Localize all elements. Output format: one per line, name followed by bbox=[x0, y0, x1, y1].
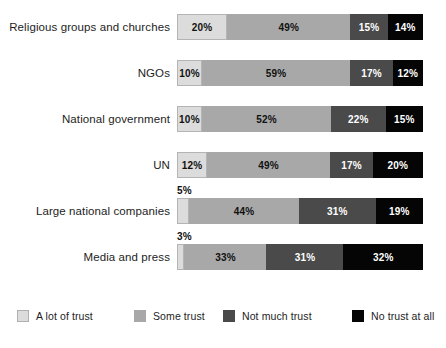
bar-segment: 44% bbox=[189, 198, 298, 224]
stacked-bar: 20%49%15%14% bbox=[177, 14, 423, 40]
legend-swatch-icon bbox=[352, 310, 364, 322]
chart-row: UN12%49%17%20% bbox=[0, 152, 446, 178]
bar-segment: 5% bbox=[177, 198, 189, 224]
segment-value-label: 20% bbox=[388, 160, 409, 171]
segment-value-label: 20% bbox=[192, 22, 213, 33]
segment-value-label: 22% bbox=[348, 114, 369, 125]
legend-label: Some trust bbox=[153, 310, 205, 322]
segment-value-label: 15% bbox=[394, 114, 415, 125]
legend-item[interactable]: Not much trust bbox=[223, 306, 312, 326]
segment-value-label: 10% bbox=[179, 114, 200, 125]
bar-segment: 49% bbox=[207, 152, 330, 178]
bar-segment: 20% bbox=[177, 14, 227, 40]
legend-item[interactable]: No trust at all bbox=[352, 306, 434, 326]
chart-legend: A lot of trustSome trustNot much trustNo… bbox=[0, 306, 446, 326]
legend-swatch-icon bbox=[134, 310, 146, 322]
bar-segment: 49% bbox=[227, 14, 350, 40]
chart-row: Media and press3%33%31%32%3% bbox=[0, 244, 446, 270]
legend-swatch-icon bbox=[223, 310, 235, 322]
bar-segment: 20% bbox=[373, 152, 423, 178]
segment-value-label: 17% bbox=[341, 160, 362, 171]
segment-value-label: 52% bbox=[256, 114, 277, 125]
legend-swatch-icon bbox=[17, 310, 29, 322]
segment-value-label: 44% bbox=[234, 206, 255, 217]
segment-value-label: 31% bbox=[327, 206, 348, 217]
chart-row: Large national companies5%44%31%19%5% bbox=[0, 198, 446, 224]
category-label: UN bbox=[0, 152, 170, 178]
category-label: NGOs bbox=[0, 60, 170, 86]
bar-segment: 31% bbox=[299, 198, 376, 224]
segment-value-label: 19% bbox=[389, 206, 410, 217]
bar-segment: 14% bbox=[388, 14, 423, 40]
legend-label: Not much trust bbox=[242, 310, 312, 322]
segment-value-label: 10% bbox=[179, 68, 200, 79]
segment-value-label: 15% bbox=[359, 22, 380, 33]
segment-value-label-outside: 3% bbox=[177, 231, 192, 243]
bar-segment: 15% bbox=[350, 14, 388, 40]
bar-segment: 32% bbox=[343, 244, 423, 270]
segment-value-label-outside: 5% bbox=[177, 185, 192, 197]
stacked-bar: 12%49%17%20% bbox=[177, 152, 423, 178]
segment-value-label: 32% bbox=[373, 252, 394, 263]
legend-item[interactable]: Some trust bbox=[134, 306, 205, 326]
segment-value-label: 33% bbox=[215, 252, 236, 263]
stacked-bar-chart: Religious groups and churches20%49%15%14… bbox=[0, 0, 446, 348]
segment-value-label: 12% bbox=[398, 68, 419, 79]
bar-segment: 33% bbox=[184, 244, 266, 270]
bar-segment: 3% bbox=[177, 244, 184, 270]
stacked-bar: 3%33%31%32% bbox=[177, 244, 423, 270]
bar-segment: 12% bbox=[177, 152, 207, 178]
bar-segment: 31% bbox=[266, 244, 343, 270]
bar-segment: 52% bbox=[202, 106, 331, 132]
bar-segment: 17% bbox=[350, 60, 393, 86]
segment-value-label: 14% bbox=[395, 22, 416, 33]
chart-row: Religious groups and churches20%49%15%14… bbox=[0, 14, 446, 40]
chart-row: NGOs10%59%17%12% bbox=[0, 60, 446, 86]
category-label: National government bbox=[0, 106, 170, 132]
segment-value-label: 12% bbox=[182, 160, 203, 171]
bar-segment: 10% bbox=[177, 106, 202, 132]
bar-segment: 59% bbox=[202, 60, 350, 86]
segment-value-label: 49% bbox=[278, 22, 299, 33]
bar-segment: 17% bbox=[330, 152, 373, 178]
category-label: Religious groups and churches bbox=[0, 14, 170, 40]
bar-segment: 15% bbox=[386, 106, 423, 132]
bar-segment: 22% bbox=[331, 106, 386, 132]
segment-value-label: 31% bbox=[295, 252, 316, 263]
bar-segment: 10% bbox=[177, 60, 202, 86]
segment-value-label: 17% bbox=[361, 68, 382, 79]
segment-value-label: 59% bbox=[266, 68, 287, 79]
bar-segment: 12% bbox=[393, 60, 423, 86]
category-label: Media and press bbox=[0, 244, 170, 270]
category-label: Large national companies bbox=[0, 198, 170, 224]
bar-segment: 19% bbox=[376, 198, 423, 224]
segment-value-label: 49% bbox=[258, 160, 279, 171]
legend-label: No trust at all bbox=[371, 310, 434, 322]
legend-item[interactable]: A lot of trust bbox=[17, 306, 93, 326]
stacked-bar: 5%44%31%19% bbox=[177, 198, 423, 224]
legend-label: A lot of trust bbox=[36, 310, 93, 322]
stacked-bar: 10%52%22%15% bbox=[177, 106, 423, 132]
chart-row: National government10%52%22%15% bbox=[0, 106, 446, 132]
stacked-bar: 10%59%17%12% bbox=[177, 60, 423, 86]
